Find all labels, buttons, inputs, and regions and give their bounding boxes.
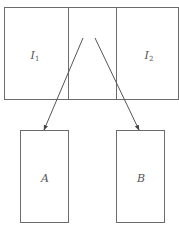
label-b-text: B: [137, 172, 145, 185]
label-i2-subscript: 2: [149, 55, 153, 63]
label-i1: I1: [31, 50, 40, 63]
label-a-text: A: [41, 172, 49, 185]
arrow-to-a: [44, 38, 83, 130]
diagram-canvas: [0, 0, 179, 229]
label-i1-subscript: 1: [35, 55, 39, 63]
label-a: A: [41, 173, 49, 184]
label-i2: I2: [145, 50, 154, 63]
label-b: B: [137, 173, 145, 184]
